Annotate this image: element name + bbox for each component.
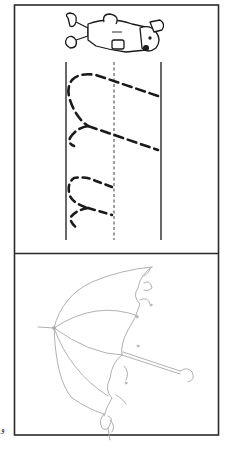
worksheet-border [15,5,219,435]
corner-mark: و [1,426,5,434]
umbrella-illustration-icon [38,267,193,440]
tracing-letter-large [68,74,158,150]
worksheet-canvas [0,0,227,451]
cartoon-bear-character-icon [66,13,164,52]
tracing-letter-small [69,177,112,228]
tracing-worksheet: و [0,0,227,451]
